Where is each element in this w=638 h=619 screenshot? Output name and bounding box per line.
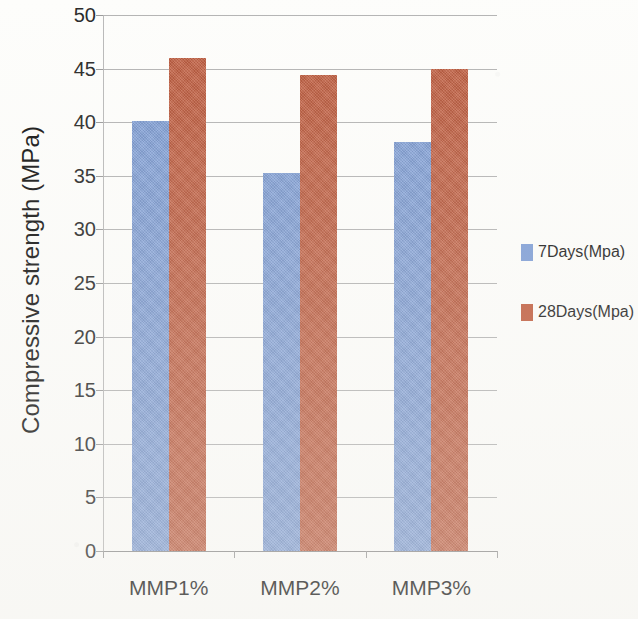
gridline xyxy=(103,551,497,552)
bar-chart: Compressive strength (MPa) 0510152025303… xyxy=(0,0,638,619)
x-axis-tick-label: MMP2% xyxy=(260,576,339,600)
gridline xyxy=(103,15,497,16)
y-axis-tickmark xyxy=(96,176,103,177)
bar-mmp1-28days xyxy=(169,58,206,551)
y-axis-tick-label: 35 xyxy=(52,164,96,187)
x-axis-tickmark xyxy=(103,551,104,558)
x-axis-tickmark xyxy=(366,551,367,558)
y-axis-title-text: Compressive strength (MPa) xyxy=(17,126,45,434)
y-axis-tickmark xyxy=(96,551,103,552)
y-axis-tickmark xyxy=(96,283,103,284)
y-axis-tick-label: 50 xyxy=(52,4,96,27)
y-axis-tickmark xyxy=(96,337,103,338)
y-axis-tick-label: 25 xyxy=(52,272,96,295)
bar-mmp2-7days xyxy=(263,173,300,551)
y-axis-tickmark xyxy=(96,15,103,16)
y-axis-tick-label: 40 xyxy=(52,111,96,134)
y-axis-tickmark xyxy=(96,497,103,498)
legend-entry-7days[interactable]: 7Days(Mpa) xyxy=(521,243,637,261)
orange-square-icon xyxy=(521,304,533,321)
y-axis-tickmark xyxy=(96,229,103,230)
y-axis-tickmark xyxy=(96,69,103,70)
y-axis-tick-label: 20 xyxy=(52,325,96,348)
y-axis-tick-label: 45 xyxy=(52,57,96,80)
blue-square-icon xyxy=(521,244,533,261)
bar-mmp2-28days xyxy=(300,75,337,551)
legend-entry-28days[interactable]: 28Days(Mpa) xyxy=(521,303,637,321)
x-axis-tickmark xyxy=(497,551,498,558)
y-axis-tickmark xyxy=(96,444,103,445)
x-axis-tickmark xyxy=(234,551,235,558)
bar-mmp3-28days xyxy=(431,69,468,551)
y-axis-tick-label: 0 xyxy=(52,540,96,563)
x-axis-tick-labels: MMP1%MMP2%MMP3% xyxy=(103,576,497,616)
x-axis-tick-label: MMP1% xyxy=(129,576,208,600)
bar-mmp3-7days xyxy=(394,142,431,552)
chart-legend: 7Days(Mpa) 28Days(Mpa) xyxy=(521,243,637,363)
y-axis-tickmark xyxy=(96,390,103,391)
y-axis-tick-labels: 05101520253035404550 xyxy=(48,0,96,619)
y-axis-tickmark xyxy=(96,122,103,123)
y-axis-tick-label: 30 xyxy=(52,218,96,241)
x-axis-tick-label: MMP3% xyxy=(392,576,471,600)
y-axis-tick-label: 10 xyxy=(52,432,96,455)
plot-area xyxy=(103,15,497,551)
y-axis-tick-label: 15 xyxy=(52,379,96,402)
legend-label-7days: 7Days(Mpa) xyxy=(538,243,625,261)
bar-mmp1-7days xyxy=(132,121,169,551)
y-axis-tick-label: 5 xyxy=(52,486,96,509)
legend-label-28days: 28Days(Mpa) xyxy=(538,303,634,321)
